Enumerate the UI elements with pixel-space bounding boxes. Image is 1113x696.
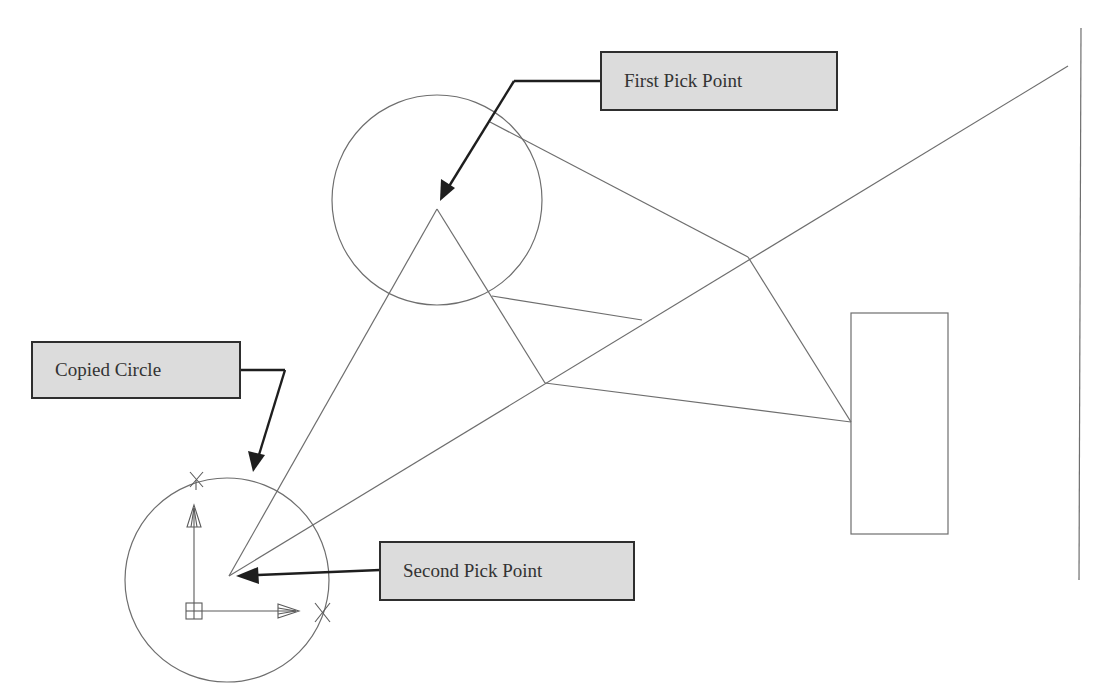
ucs-icon xyxy=(186,505,299,619)
leader-second-pick xyxy=(236,567,380,584)
line-circle-top-to-node[interactable] xyxy=(490,122,748,257)
original-circle[interactable] xyxy=(332,95,542,305)
callout-copied-circle: Copied Circle xyxy=(31,341,241,399)
snap-marker-right-icon xyxy=(315,603,330,622)
copied-circle[interactable] xyxy=(125,478,329,682)
line-node-to-rectangle[interactable] xyxy=(748,257,851,422)
line-apex-to-lower-node[interactable] xyxy=(437,209,545,383)
rectangle[interactable] xyxy=(851,313,948,534)
callout-second-pick-label: Second Pick Point xyxy=(403,560,542,582)
line-second-to-first-pick[interactable] xyxy=(229,209,437,576)
vertical-line[interactable] xyxy=(1079,28,1081,580)
callout-first-pick-point: First Pick Point xyxy=(600,51,838,111)
callout-first-pick-label: First Pick Point xyxy=(624,70,742,92)
long-diagonal-line[interactable] xyxy=(229,66,1068,576)
callout-second-pick-point: Second Pick Point xyxy=(379,541,635,601)
line-lower-node-to-rectangle[interactable] xyxy=(545,383,851,422)
callout-copied-circle-label: Copied Circle xyxy=(55,359,161,381)
line-circle-to-diagonal[interactable] xyxy=(492,296,642,320)
leader-copied-circle xyxy=(240,370,285,472)
